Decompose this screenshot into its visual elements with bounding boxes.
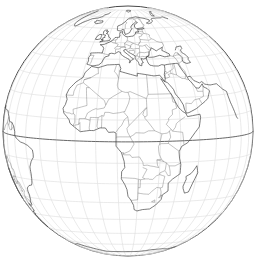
orthographic-globe [0, 0, 259, 263]
globe-map [0, 0, 259, 263]
